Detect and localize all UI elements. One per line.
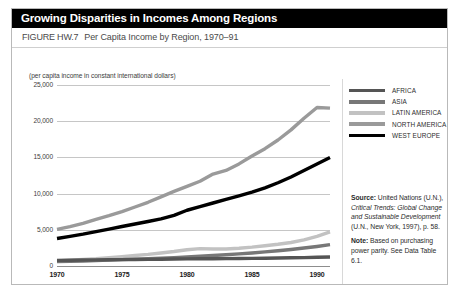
x-axis-tick-label: 1970 (49, 271, 64, 278)
series-line (57, 157, 330, 238)
y-axis-tick-label: 5,000 (37, 226, 53, 233)
legend-item[interactable]: AFRICA (349, 85, 445, 96)
note-label: Note: (351, 237, 368, 244)
x-axis-tick-label: 1975 (114, 271, 129, 278)
y-axis-tick-label: 10,000 (33, 190, 53, 197)
y-axis-tick-label: 20,000 (33, 117, 53, 124)
source-text-italic: Critical Trends: Global Change and Susta… (351, 204, 442, 221)
series-line (57, 107, 330, 229)
y-axis-labels: 05,00010,00015,00020,00025,000 (22, 85, 53, 266)
legend-label: ASIA (392, 98, 407, 105)
legend-item[interactable]: WEST EUROPE (349, 130, 445, 141)
figure-frame: Growing Disparities in Incomes Among Reg… (11, 8, 448, 285)
legend-item[interactable]: NORTH AMERICA (349, 119, 445, 130)
x-axis-tick-label: 1980 (179, 271, 194, 278)
legend-item[interactable]: ASIA (349, 96, 445, 107)
source-text-1: United Nations (U.N.), (378, 194, 443, 201)
y-axis-tick-label: 0 (49, 262, 53, 269)
legend-swatch-icon (349, 122, 385, 126)
legend-item[interactable]: LATIN AMERICA (349, 107, 445, 118)
legend-swatch-icon (349, 100, 385, 104)
x-axis-line (57, 266, 330, 267)
x-axis-tick-label: 1990 (309, 271, 324, 278)
x-axis-labels: 19701975198019851990 (57, 271, 330, 285)
chart-legend: AFRICAASIALATIN AMERICANORTH AMERICAWEST… (349, 85, 445, 141)
notes-panel: Source: United Nations (U.N.), Critical … (351, 193, 447, 270)
legend-label: AFRICA (392, 87, 416, 94)
source-text-2: (U.N., New York, 1997), p. 58. (351, 223, 440, 230)
legend-label: NORTH AMERICA (392, 121, 446, 128)
chart-series (57, 85, 330, 266)
x-axis-tick-label: 1985 (244, 271, 259, 278)
y-axis-tick-label: 25,000 (33, 81, 53, 88)
legend-swatch-icon (349, 89, 385, 93)
legend-swatch-icon (349, 134, 385, 138)
source-label: Source: (351, 194, 376, 201)
panel-divider (342, 79, 343, 284)
legend-label: LATIN AMERICA (392, 109, 441, 116)
general-note: Note: Based on purchasing power parity. … (351, 236, 447, 265)
y-axis-tick-label: 15,000 (33, 153, 53, 160)
legend-swatch-icon (349, 111, 385, 115)
source-note: Source: United Nations (U.N.), Critical … (351, 193, 447, 231)
legend-label: WEST EUROPE (392, 132, 440, 139)
